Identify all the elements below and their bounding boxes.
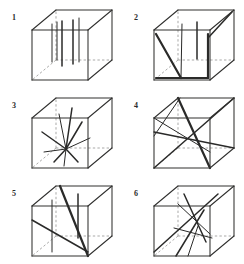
fiber-segment-3 [178, 204, 210, 234]
panel-6-cube [148, 180, 240, 262]
panel-2-label: 2 [134, 14, 138, 22]
edge-bottom-right-connector [210, 60, 234, 80]
panel-6: 6 [122, 176, 244, 264]
edge-bottom-right-connector [88, 236, 112, 256]
edge-top-left-connector [154, 186, 178, 206]
fiber-segment-1 [154, 194, 218, 252]
panel-5-fibers [32, 186, 88, 256]
edge-top-left-connector [32, 98, 56, 118]
edge-bottom-right-connector [210, 148, 234, 168]
edge-bottom-right-connector [210, 236, 234, 256]
panel-3-fibers [42, 108, 90, 166]
edge-top-right-connector [88, 98, 112, 118]
fiber-segment-5 [154, 98, 180, 136]
edge-top-left-connector [154, 98, 178, 118]
hidden-edge-bottom-left-connector [154, 236, 178, 256]
fiber-segment-1 [156, 34, 181, 78]
edge-bottom-right-connector [88, 60, 112, 80]
edge-top-right-connector [210, 186, 234, 206]
panel-1: 1 [0, 0, 122, 88]
fiber-segment-7 [66, 149, 78, 162]
edge-top-right-connector [210, 98, 234, 118]
fiber-segment-3 [42, 132, 66, 149]
fiber-segment-2 [59, 114, 66, 149]
panel-4-cube [148, 92, 240, 174]
panel-3-cube [26, 92, 118, 174]
panel-5-label: 5 [12, 190, 16, 198]
fiber-segment-6 [208, 12, 232, 38]
cube-figure-grid: 123456 [0, 0, 244, 264]
panel-5-cube [26, 180, 118, 262]
panel-6-label: 6 [134, 190, 138, 198]
panel-1-cube [26, 4, 118, 86]
hidden-edge-bottom-left-connector [32, 60, 56, 80]
panel-2-fibers [156, 12, 232, 78]
fiber-segment-1 [60, 186, 88, 256]
edge-top-right-connector [210, 10, 234, 30]
panel-4-label: 4 [134, 102, 138, 110]
panel-1-label: 1 [12, 14, 16, 22]
fiber-segment-5 [188, 226, 198, 256]
fiber-segment-3 [178, 98, 210, 168]
panel-6-fibers [154, 194, 218, 256]
panel-4: 4 [122, 88, 244, 176]
edge-bottom-right-connector [88, 148, 112, 168]
panel-2-cube [148, 4, 240, 86]
panel-3: 3 [0, 88, 122, 176]
fiber-segment-2 [181, 24, 182, 78]
edge-top-left-connector [154, 10, 178, 30]
edge-top-right-connector [88, 10, 112, 30]
panel-2: 2 [122, 0, 244, 88]
panel-5: 5 [0, 176, 122, 264]
panel-3-label: 3 [12, 102, 16, 110]
edge-top-right-connector [88, 186, 112, 206]
